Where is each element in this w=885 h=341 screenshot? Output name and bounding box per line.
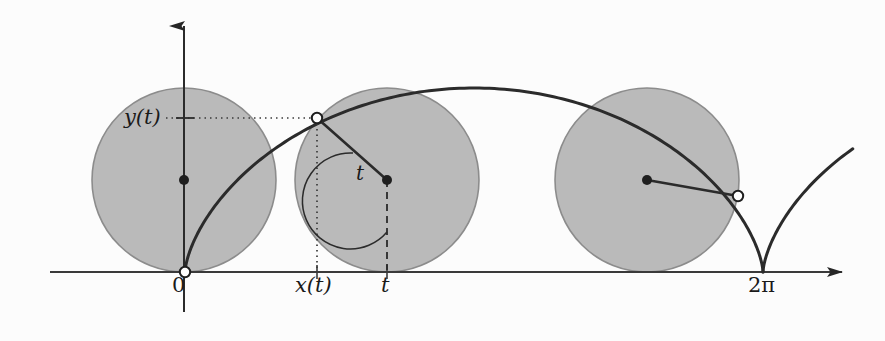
rolling-circles-group: [92, 88, 739, 272]
point-on-end-circle: [733, 191, 743, 201]
center-dot-end: [642, 175, 652, 185]
t-angle-label: t: [356, 163, 364, 183]
two-pi-label: 2π: [748, 275, 775, 296]
y-of-t-label: y(t): [124, 107, 161, 128]
point-on-middle-circle: [312, 113, 322, 123]
cycloid-figure: y(t) x(t) t t 0 2π: [0, 0, 885, 341]
center-dot-middle: [382, 175, 392, 185]
center-dot-start: [179, 175, 189, 185]
cycloid-tail: [763, 149, 853, 272]
t-axis-label: t: [381, 275, 389, 296]
x-of-t-label: x(t): [295, 275, 332, 296]
origin-label: 0: [172, 275, 185, 296]
